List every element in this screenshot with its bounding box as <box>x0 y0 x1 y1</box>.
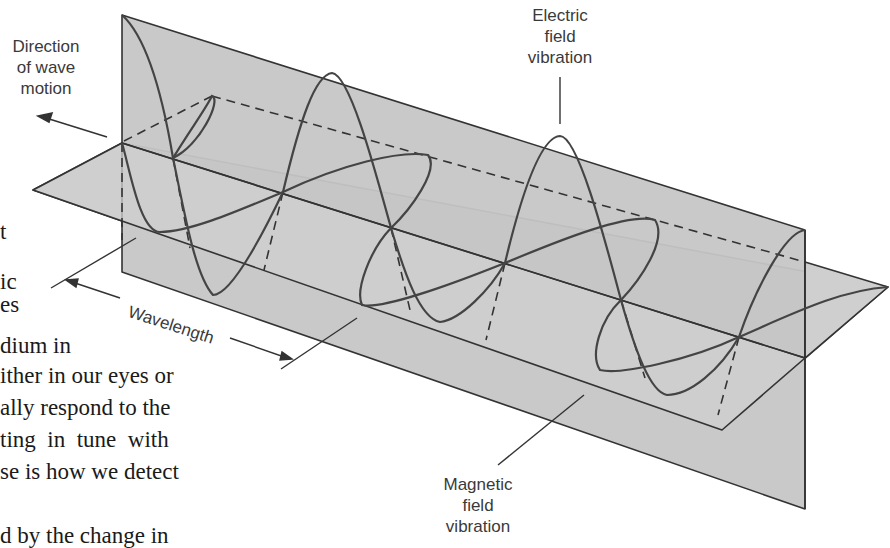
electric-field-label: Electric field vibration <box>512 5 608 68</box>
direction-label: Direction of wave motion <box>2 36 90 99</box>
direction-arrow <box>38 113 107 137</box>
magnetic-field-label: Magnetic field vibration <box>430 474 526 537</box>
horizontal-plane-right <box>805 262 888 358</box>
